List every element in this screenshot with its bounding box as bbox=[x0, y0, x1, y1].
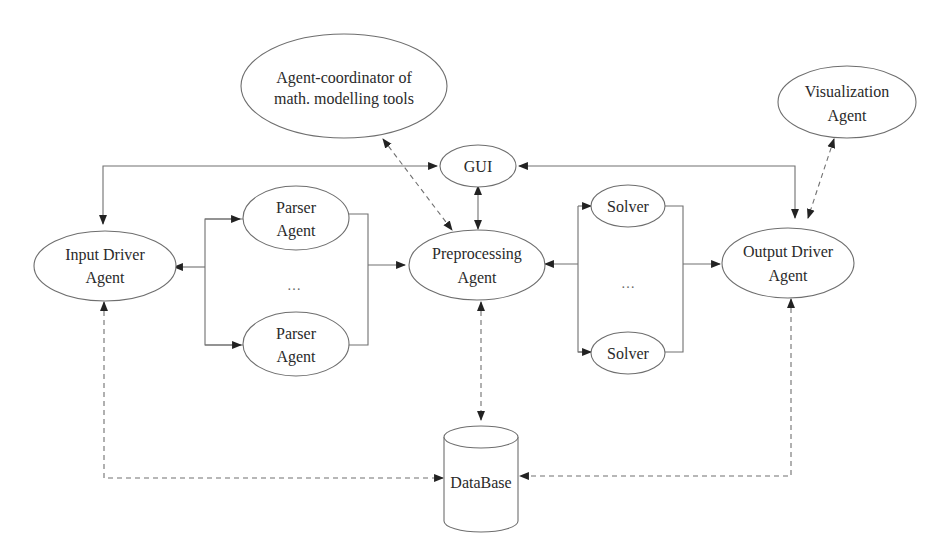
svg-text:Agent: Agent bbox=[827, 107, 867, 125]
svg-text:GUI: GUI bbox=[464, 158, 492, 175]
node-output-driver-agent: Output Driver Agent bbox=[722, 228, 854, 298]
solver-ellipsis: … bbox=[621, 276, 635, 291]
node-input-driver-agent: Input Driver Agent bbox=[34, 231, 176, 301]
svg-text:Parser: Parser bbox=[276, 325, 317, 342]
edge-coordinator-preprocessing bbox=[383, 139, 452, 230]
node-parser-agent-bottom: Parser Agent bbox=[243, 312, 349, 376]
svg-text:Agent-coordinator of: Agent-coordinator of bbox=[276, 69, 412, 87]
node-visualization-agent: Visualization Agent bbox=[778, 66, 916, 138]
svg-text:Preprocessing: Preprocessing bbox=[432, 245, 522, 263]
node-agent-coordinator: Agent-coordinator of math. modelling too… bbox=[241, 34, 447, 138]
node-database: DataBase bbox=[444, 426, 518, 532]
svg-text:Visualization: Visualization bbox=[805, 83, 889, 100]
edge-solver-bus-left bbox=[578, 206, 591, 352]
svg-text:Solver: Solver bbox=[607, 198, 649, 215]
svg-text:Output Driver: Output Driver bbox=[743, 243, 834, 261]
svg-text:Solver: Solver bbox=[607, 345, 649, 362]
svg-text:Agent: Agent bbox=[85, 269, 125, 287]
svg-text:Parser: Parser bbox=[276, 199, 317, 216]
svg-text:Agent: Agent bbox=[276, 222, 316, 240]
edge-solver-bus-right bbox=[665, 206, 683, 352]
edge-parser-bus-right bbox=[348, 214, 368, 345]
svg-text:Agent: Agent bbox=[768, 267, 808, 285]
agent-architecture-diagram: Agent-coordinator of math. modelling too… bbox=[0, 0, 946, 556]
node-parser-agent-top: Parser Agent bbox=[243, 186, 349, 250]
node-solver-bottom: Solver bbox=[591, 332, 665, 374]
edge-output-driver-database bbox=[520, 299, 791, 476]
svg-text:math. modelling tools: math. modelling tools bbox=[274, 90, 414, 108]
node-gui: GUI bbox=[440, 145, 516, 187]
svg-text:DataBase: DataBase bbox=[450, 474, 511, 491]
parser-ellipsis: … bbox=[287, 278, 301, 293]
svg-text:Agent: Agent bbox=[276, 348, 316, 366]
edge-parser-bus-left bbox=[205, 219, 243, 345]
svg-text:Input Driver: Input Driver bbox=[65, 246, 145, 264]
edge-visualization-output-driver bbox=[808, 139, 834, 218]
node-solver-top: Solver bbox=[591, 185, 665, 227]
node-preprocessing-agent: Preprocessing Agent bbox=[409, 230, 545, 300]
svg-text:Agent: Agent bbox=[457, 269, 497, 287]
